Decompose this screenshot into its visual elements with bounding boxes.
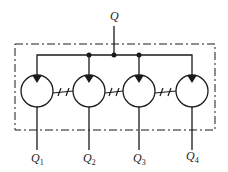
motor-4 [176, 75, 208, 150]
triangle-icon [134, 75, 144, 83]
shaft-coupling [155, 88, 176, 96]
shaft-coupling [105, 88, 123, 96]
triangle-icon [84, 75, 94, 83]
shaft-coupling [53, 88, 73, 96]
junction-dot [87, 53, 92, 58]
triangle-icon [32, 75, 42, 83]
flow-divider-diagram: Q Q1 Q2 Q3 Q4 [0, 0, 228, 172]
output-label-2: Q2 [83, 151, 96, 167]
motor-2 [73, 75, 105, 150]
motor-1 [21, 75, 53, 150]
supply-bus [37, 55, 192, 75]
input-label: Q [110, 9, 119, 23]
motor-3 [123, 75, 155, 150]
output-label-1: Q1 [31, 151, 44, 167]
junction-dot [137, 53, 142, 58]
output-label-3: Q3 [133, 151, 146, 167]
triangle-icon [187, 75, 197, 83]
junction-dot [112, 53, 117, 58]
output-label-4: Q4 [186, 149, 199, 165]
